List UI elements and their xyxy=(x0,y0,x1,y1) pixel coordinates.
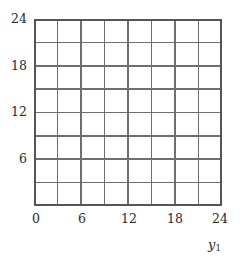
x-tick-label-6: 6 xyxy=(78,213,86,226)
x-axis-tick-labels: 0 6 12 18 24 xyxy=(0,213,241,229)
x-tick-label-18: 18 xyxy=(167,213,183,226)
x-axis-label-variable: y xyxy=(208,237,215,252)
x-axis-label-subscript: 1 xyxy=(216,243,221,253)
y-tick-label-18: 18 xyxy=(11,60,27,73)
chart-figure: 24 18 12 6 0 6 12 18 24 y1 xyxy=(0,0,241,265)
y-tick-label-24: 24 xyxy=(11,13,27,26)
x-tick-label-24: 24 xyxy=(212,213,228,226)
x-tick-label-12: 12 xyxy=(121,213,137,226)
plot-area xyxy=(34,19,222,206)
grid-lines xyxy=(34,19,222,206)
x-tick-label-0: 0 xyxy=(32,213,40,226)
x-axis-label: y1 xyxy=(208,238,221,252)
y-tick-label-6: 6 xyxy=(19,153,27,166)
y-tick-label-12: 12 xyxy=(11,106,27,119)
